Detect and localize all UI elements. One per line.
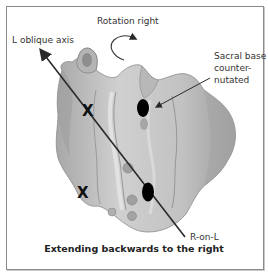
sacral-base-label-1: Sacral base [214,51,266,62]
sacral-base-dot [137,99,149,117]
axis-label: L oblique axis [12,35,74,46]
rotation-label: Rotation right [97,16,159,27]
x-marker-upper: X [82,104,94,119]
figure-caption: Extending backwards to the right [0,243,268,254]
rotation-arrow-icon [111,36,134,60]
sacral-base-label-2: counter- [214,63,251,74]
r-on-l-label: R-on-L [190,232,219,243]
inferior-angle-dot [142,183,154,202]
x-marker-lower: X [77,186,89,201]
sacral-base-label-3: nutated [214,75,249,86]
